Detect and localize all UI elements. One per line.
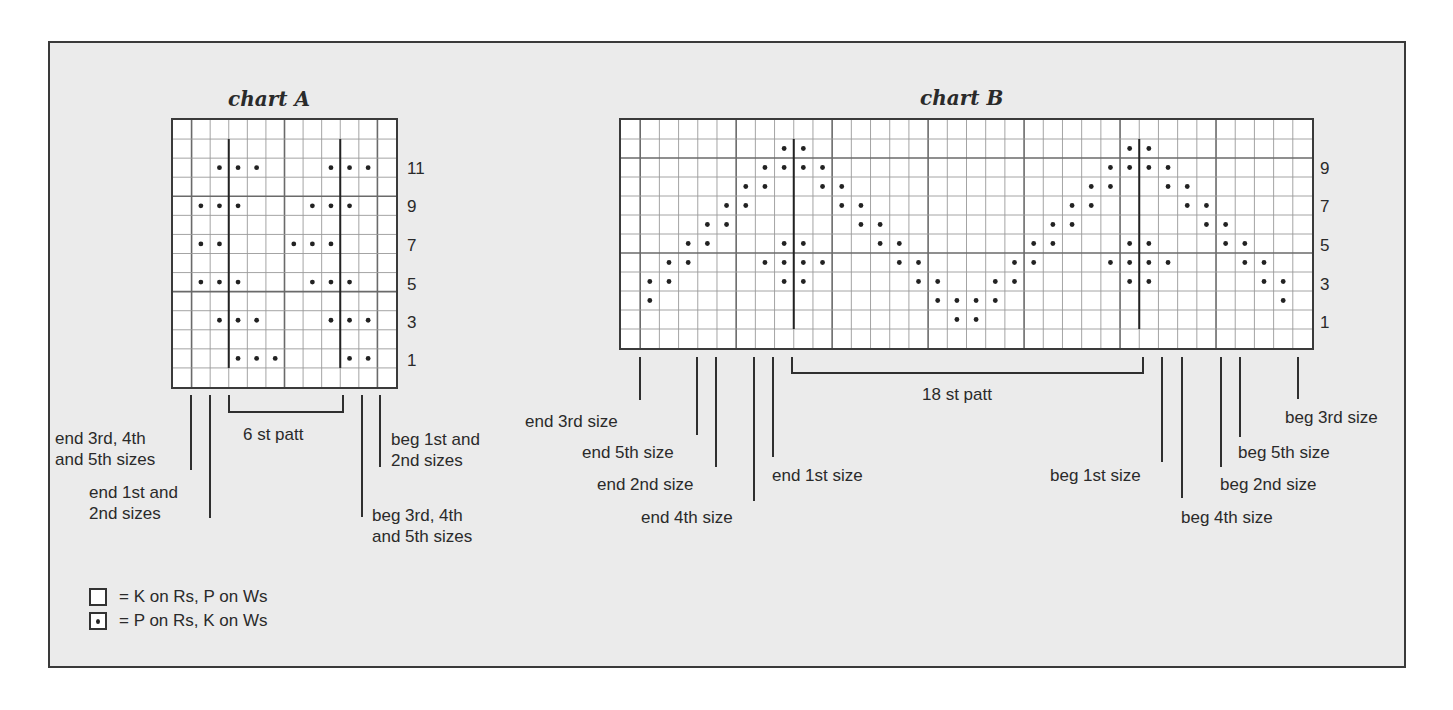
tick-end-4-b [753,357,755,501]
chart-a-row-label: 11 [407,159,425,179]
legend-purl: = P on Rs, K on Ws [89,611,268,631]
tick-beg-4-b [1181,357,1183,498]
chart-b-title: chart B [920,86,1003,110]
label-line: beg 3rd, 4th [372,505,472,526]
chart-a-grid [171,118,398,389]
legend-knit: = K on Rs, P on Ws [89,587,268,607]
tick-beg-3-b [1297,357,1299,399]
size-label-end-1: end 1st size [772,465,863,486]
chart-b-row-label: 3 [1320,275,1329,295]
size-label-beg-12: beg 1st and 2nd sizes [391,429,480,471]
label-line: 2nd sizes [89,503,178,524]
size-label-end-5: end 5th size [582,442,674,463]
repeat-label-a: 6 st patt [243,424,303,445]
label-line: and 5th sizes [372,526,472,547]
size-label-end-3: end 3rd size [525,411,618,432]
tick-beg-1-b [1161,357,1163,462]
size-label-end-4: end 4th size [641,507,733,528]
size-label-beg-4: beg 4th size [1181,507,1273,528]
empty-square-icon [89,588,107,606]
size-label-end-12: end 1st and 2nd sizes [89,482,178,524]
tick-end-1-b [772,357,774,457]
chart-a-row-label: 9 [407,197,416,217]
size-label-end-345: end 3rd, 4th and 5th sizes [55,428,155,470]
label-line: beg 1st and [391,429,480,450]
legend-knit-text: = K on Rs, P on Ws [119,587,268,607]
tick-beg-5-b [1239,357,1241,437]
tick-beg-12-a [379,395,381,467]
tick-end-2-b [715,357,717,467]
label-line: end 3rd, 4th [55,428,155,449]
chart-b-row-label: 9 [1320,159,1329,179]
size-label-beg-3: beg 3rd size [1285,407,1378,428]
chart-b-row-label: 1 [1320,313,1329,333]
chart-a-title: chart A [228,87,310,111]
tick-beg-345-a [361,395,363,517]
chart-a-row-label: 5 [407,275,416,295]
label-line: and 5th sizes [55,449,155,470]
chart-a-row-label: 7 [407,236,416,256]
size-label-beg-1: beg 1st size [1050,465,1141,486]
chart-a-row-label: 3 [407,313,416,333]
label-line: 2nd sizes [391,450,480,471]
legend-purl-text: = P on Rs, K on Ws [119,611,268,631]
label-line: end 1st and [89,482,178,503]
tick-end-345-a [190,395,192,470]
tick-end-3-b [639,357,641,400]
repeat-label-b: 18 st patt [922,384,992,405]
repeat-bracket-a [228,395,344,413]
dot-square-icon [89,612,107,630]
tick-end-5-b [696,357,698,435]
repeat-bracket-b [791,357,1144,374]
chart-b-row-label: 5 [1320,236,1329,256]
tick-beg-2-b [1220,357,1222,467]
size-label-end-2: end 2nd size [597,474,693,495]
size-label-beg-2: beg 2nd size [1220,474,1316,495]
chart-b-row-label: 7 [1320,197,1329,217]
size-label-beg-5: beg 5th size [1238,442,1330,463]
chart-a-row-label: 1 [407,351,416,371]
tick-end-12-a [209,395,211,518]
size-label-beg-345: beg 3rd, 4th and 5th sizes [372,505,472,547]
chart-b-grid [619,118,1314,350]
